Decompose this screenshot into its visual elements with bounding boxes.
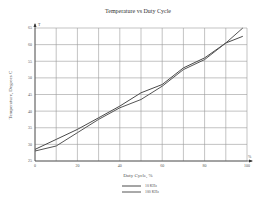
x-tick-label: 0 [34,163,36,168]
y-tick-label: 40 [28,109,32,114]
chart: Temperature vs Duty Cycle 25303540455055… [0,0,267,206]
y-tick-label: 50 [28,75,32,80]
legend-label: 100 KHz [145,190,159,194]
legend: 10 KHz100 KHz [122,184,159,194]
series-lines [35,28,243,151]
grid [35,28,247,161]
x-axis-marker: % [248,154,252,159]
y-tick-label: 55 [28,59,32,64]
x-tick-label: 80 [203,163,207,168]
axes [34,23,254,163]
chart-title: Temperature vs Duty Cycle [105,8,171,14]
y-tick-label: 60 [28,42,32,47]
x-tick-label: 20 [75,163,79,168]
series-line [35,36,243,149]
x-tick-label: 60 [160,163,164,168]
legend-label: 10 KHz [145,184,157,188]
y-tick-label: 45 [28,92,32,97]
x-axis-label: Duty Cycle, % [123,173,153,179]
y-axis-marker: T [38,22,41,27]
y-axis-arrow-icon [34,23,37,27]
y-tick-label: 25 [28,158,32,163]
x-tick-labels: 020406080100 [34,163,250,168]
x-tick-label: 100 [244,163,250,168]
y-axis-label: Temperature, Degrees C [8,70,14,119]
y-tick-label: 35 [28,125,32,130]
y-tick-label: 65 [28,25,32,30]
y-tick-labels: 253035404550556065 [28,25,32,163]
x-tick-label: 40 [118,163,122,168]
y-tick-label: 30 [28,142,32,147]
series-line [35,28,243,151]
